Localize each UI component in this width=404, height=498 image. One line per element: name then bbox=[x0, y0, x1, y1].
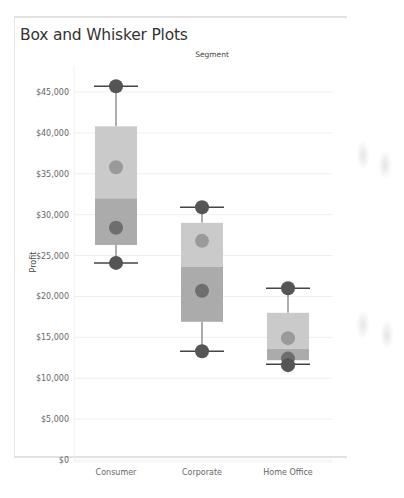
scan-artifact bbox=[378, 150, 392, 180]
data-point bbox=[109, 160, 123, 174]
data-point bbox=[195, 234, 209, 248]
y-tick-label: $0 bbox=[59, 456, 69, 465]
y-tick-label: $15,000 bbox=[36, 333, 69, 342]
data-point bbox=[109, 79, 123, 93]
data-point bbox=[109, 221, 123, 235]
y-tick-label: $5,000 bbox=[41, 415, 69, 424]
box-plot-chart: $0$5,000$10,000$15,000$20,000$25,000$30,… bbox=[0, 0, 404, 498]
scan-artifact bbox=[356, 140, 370, 170]
y-tick-label: $35,000 bbox=[36, 170, 69, 179]
scan-artifact bbox=[356, 310, 370, 340]
y-tick-label: $10,000 bbox=[36, 374, 69, 383]
data-point bbox=[195, 284, 209, 298]
y-tick-label: $20,000 bbox=[36, 292, 69, 301]
y-tick-label: $30,000 bbox=[36, 211, 69, 220]
y-tick-label: $25,000 bbox=[36, 252, 69, 261]
data-point bbox=[109, 256, 123, 270]
data-point bbox=[195, 344, 209, 358]
x-tick-label: Consumer bbox=[96, 468, 138, 477]
data-point bbox=[195, 200, 209, 214]
x-tick-label: Home Office bbox=[263, 468, 313, 477]
y-tick-label: $45,000 bbox=[36, 88, 69, 97]
x-tick-label: Corporate bbox=[182, 468, 222, 477]
y-tick-label: $40,000 bbox=[36, 129, 69, 138]
scan-artifact bbox=[380, 320, 394, 350]
data-point bbox=[281, 281, 295, 295]
y-axis-label: Profit bbox=[29, 252, 38, 273]
data-point bbox=[281, 331, 295, 345]
data-point bbox=[281, 358, 295, 372]
